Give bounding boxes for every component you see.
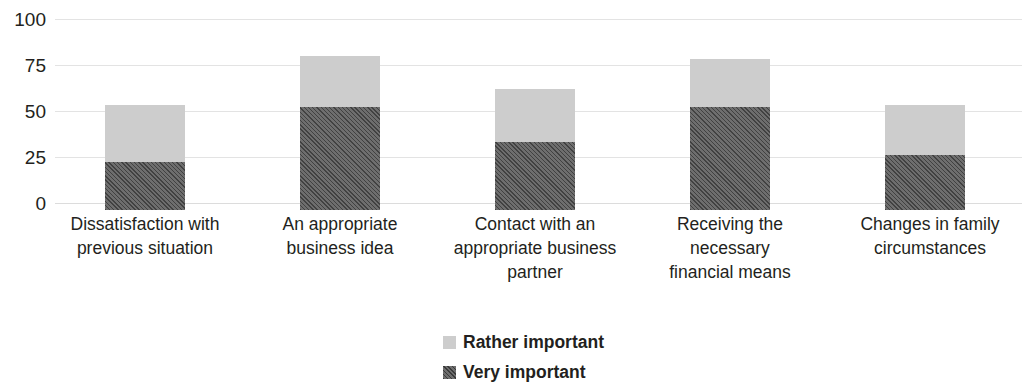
x-axis-label-line: partner bbox=[438, 260, 632, 284]
bar-segment-rather-important bbox=[495, 89, 575, 142]
x-axis-label-line: Changes in family bbox=[845, 212, 1015, 236]
y-axis-tick-label-0: 0 bbox=[0, 194, 46, 213]
y-axis-tick-label-50: 50 bbox=[0, 102, 46, 121]
bar-segment-very-important bbox=[495, 142, 575, 210]
bar-dissatisfaction-with-previous-situation bbox=[105, 7, 185, 210]
legend-label-rather-important: Rather important bbox=[463, 332, 604, 353]
bar-contact-with-an-appropriate-business-partner bbox=[495, 7, 575, 210]
bar-segment-very-important bbox=[300, 107, 380, 210]
x-axis-label-receiving-the-necessary-financial-means: Receiving the necessary financial means bbox=[635, 212, 825, 284]
bar-segment-rather-important bbox=[885, 105, 965, 155]
x-axis-label-line: Contact with an bbox=[438, 212, 632, 236]
x-axis-label-line: financial means bbox=[635, 260, 825, 284]
stacked-bar-chart: 100 75 50 25 0 Dissatisfaction bbox=[0, 0, 1031, 382]
y-axis-tick-label-100: 100 bbox=[0, 10, 46, 29]
x-axis-label-changes-in-family-circumstances: Changes in family circumstances bbox=[845, 212, 1015, 260]
bar-segment-very-important bbox=[105, 162, 185, 210]
bar-segment-rather-important bbox=[300, 56, 380, 107]
chart-legend: Rather important Very important bbox=[0, 326, 1031, 382]
legend-swatch-icon-rather-important bbox=[443, 336, 456, 349]
x-axis-label-line: previous situation bbox=[55, 236, 235, 260]
x-axis-label-line: An appropriate bbox=[255, 212, 425, 236]
legend-swatch-icon-very-important bbox=[443, 366, 456, 379]
legend-label-very-important: Very important bbox=[463, 362, 586, 382]
legend-item-very-important: Very important bbox=[443, 360, 586, 382]
bar-changes-in-family-circumstances bbox=[885, 7, 965, 210]
bar-an-appropriate-business-idea bbox=[300, 7, 380, 210]
x-axis-label-dissatisfaction-with-previous-situation: Dissatisfaction with previous situation bbox=[55, 212, 235, 260]
bar-segment-rather-important bbox=[105, 105, 185, 162]
plot-area: 100 75 50 25 0 bbox=[0, 0, 1031, 210]
x-axis-label-line: circumstances bbox=[845, 236, 1015, 260]
x-axis-label-line: appropriate business bbox=[438, 236, 632, 260]
x-axis-label-contact-with-an-appropriate-business-partner: Contact with an appropriate business par… bbox=[438, 212, 632, 284]
y-axis-tick-label-75: 75 bbox=[0, 56, 46, 75]
legend-item-rather-important: Rather important bbox=[443, 330, 604, 354]
bar-receiving-the-necessary-financial-means bbox=[690, 7, 770, 210]
y-axis-tick-label-25: 25 bbox=[0, 148, 46, 167]
x-axis-label-line: business idea bbox=[255, 236, 425, 260]
bar-segment-very-important bbox=[690, 107, 770, 210]
bar-segment-very-important bbox=[885, 155, 965, 210]
x-axis-label-line: Dissatisfaction with bbox=[55, 212, 235, 236]
x-axis-category-labels: Dissatisfaction with previous situation … bbox=[0, 212, 1031, 292]
x-axis-label-line: Receiving the necessary bbox=[635, 212, 825, 260]
x-axis-label-an-appropriate-business-idea: An appropriate business idea bbox=[255, 212, 425, 260]
bar-segment-rather-important bbox=[690, 59, 770, 107]
